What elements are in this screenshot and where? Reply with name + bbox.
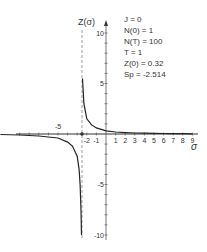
svg-text:7: 7 (171, 137, 175, 144)
param-sp: Sp = -2.514 (124, 70, 166, 79)
svg-text:5: 5 (100, 80, 104, 87)
svg-text:6: 6 (162, 137, 166, 144)
svg-text:-1: -1 (93, 137, 99, 144)
svg-text:-10: -10 (94, 232, 104, 239)
y-axis-label: Z(σ) (78, 17, 95, 27)
svg-text:-5: -5 (55, 123, 61, 130)
param-n0: N(0) = 1 (124, 26, 153, 35)
curve-left-branch (0, 135, 81, 236)
svg-text:4: 4 (142, 137, 146, 144)
param-t: T = 1 (124, 48, 142, 57)
param-z0: Z(0) = 0.32 (124, 59, 163, 68)
svg-text:8: 8 (181, 137, 185, 144)
param-j: J = 0 (124, 15, 142, 24)
svg-text:-2: -2 (84, 137, 90, 144)
param-nt: N(T) = 100 (124, 37, 162, 46)
svg-text:5: 5 (152, 137, 156, 144)
x-axis-label: σ (191, 141, 198, 152)
svg-text:2: 2 (123, 137, 127, 144)
svg-text:10: 10 (96, 30, 104, 37)
y-axis-arrow-icon (104, 20, 108, 26)
pole-marker (80, 132, 84, 136)
svg-text:1: 1 (114, 137, 118, 144)
chart: -5-2-1123456789 105-5-10 Z(σ) σ (0, 0, 207, 252)
curve-right-branch (83, 79, 193, 134)
svg-text:3: 3 (133, 137, 137, 144)
svg-text:-5: -5 (98, 181, 104, 188)
